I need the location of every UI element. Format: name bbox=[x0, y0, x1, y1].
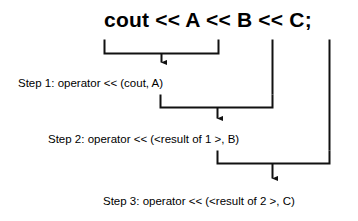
step-1-label: Step 1: operator << (cout, A) bbox=[18, 76, 163, 90]
bracket-step-3 bbox=[218, 151, 330, 164]
bracket-group-step-2 bbox=[161, 40, 273, 119]
step-3-label: Step 3: operator << (<result of 2 >, C) bbox=[103, 194, 295, 208]
bracket-group-step-1 bbox=[105, 40, 219, 63]
bracket-step-1 bbox=[105, 40, 219, 54]
expression-statement: cout << A << B << C; bbox=[104, 7, 312, 33]
diagram-canvas: cout << A << B << C; Step 1: operator <<… bbox=[0, 0, 358, 221]
bracket-step-2 bbox=[161, 95, 273, 108]
connector-lines-layer bbox=[0, 0, 358, 221]
step-2-label: Step 2: operator << (<result of 1 >, B) bbox=[48, 132, 239, 146]
